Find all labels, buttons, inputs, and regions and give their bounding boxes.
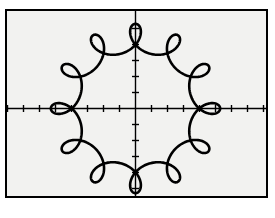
polar-curve-figure bbox=[0, 0, 275, 218]
plot-background bbox=[6, 10, 267, 197]
plot-viewport: A thick black closed curve forming a flo… bbox=[0, 0, 275, 218]
